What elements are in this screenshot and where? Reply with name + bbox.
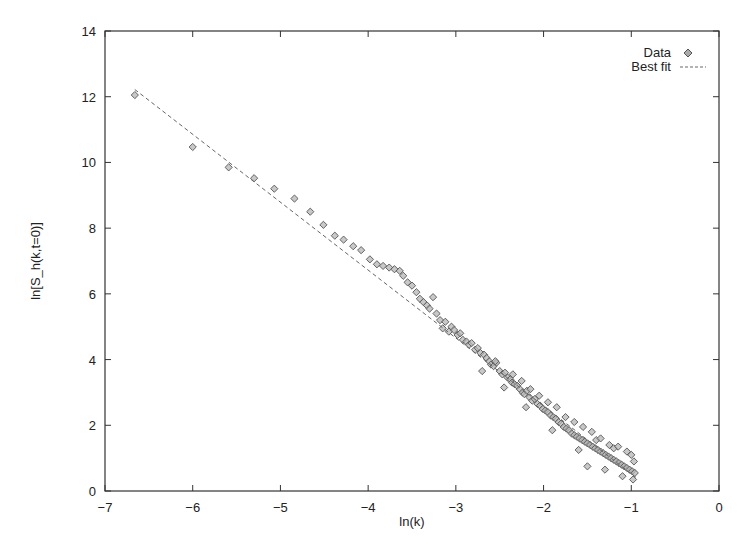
- x-tick-label: −1: [624, 500, 639, 515]
- x-tick-label: −6: [185, 500, 200, 515]
- plot-area: [131, 89, 638, 483]
- legend-label-data: Data: [644, 45, 672, 60]
- y-tick-label: 0: [89, 484, 96, 499]
- x-tick-label: 0: [715, 500, 722, 515]
- x-tick-label: −3: [448, 500, 463, 515]
- data-point: [251, 175, 258, 182]
- data-point: [358, 247, 365, 254]
- plot-frame: [105, 31, 719, 491]
- data-point: [331, 232, 338, 239]
- y-tick-label: 8: [89, 221, 96, 236]
- legend-label-best-fit: Best fit: [631, 59, 671, 74]
- data-point: [601, 466, 608, 473]
- data-point: [291, 195, 298, 202]
- data-point: [544, 399, 551, 406]
- x-tick-label: −7: [98, 500, 113, 515]
- best-fit-line: [135, 89, 636, 477]
- data-point: [131, 91, 138, 98]
- data-point: [373, 261, 380, 268]
- data-point: [413, 289, 420, 296]
- scatter-plot: −7−6−5−4−3−2−1002468101214 ln(k) ln[S_h(…: [0, 0, 745, 546]
- x-tick-label: −2: [536, 500, 551, 515]
- data-point: [571, 418, 578, 425]
- data-point: [619, 473, 626, 480]
- x-tick-label: −4: [361, 500, 376, 515]
- data-point: [350, 243, 357, 250]
- data-point: [366, 256, 373, 263]
- data-point: [553, 404, 560, 411]
- data-point: [379, 262, 386, 269]
- data-point: [433, 310, 440, 317]
- y-tick-label: 12: [82, 90, 96, 105]
- data-point: [320, 221, 327, 228]
- data-point: [225, 164, 232, 171]
- y-tick-label: 4: [89, 353, 96, 368]
- data-point: [518, 377, 525, 384]
- data-point: [549, 427, 556, 434]
- data-point: [575, 446, 582, 453]
- data-point: [479, 367, 486, 374]
- data-point: [562, 413, 569, 420]
- x-tick-label: −5: [273, 500, 288, 515]
- data-point: [588, 428, 595, 435]
- y-tick-label: 14: [82, 24, 96, 39]
- data-point: [189, 143, 196, 150]
- data-point: [340, 236, 347, 243]
- data-point: [579, 423, 586, 430]
- y-tick-label: 6: [89, 287, 96, 302]
- y-tick-label: 2: [89, 418, 96, 433]
- data-point: [501, 384, 508, 391]
- legend: Data Best fit: [631, 45, 706, 74]
- data-point: [271, 185, 278, 192]
- data-point: [307, 208, 314, 215]
- data-point: [584, 463, 591, 470]
- diamond-marker-icon: [684, 49, 692, 57]
- y-tick-label: 10: [82, 155, 96, 170]
- y-axis-label: ln[S_h(k,t=0)]: [28, 222, 43, 300]
- data-point: [522, 404, 529, 411]
- x-axis-label: ln(k): [399, 514, 424, 529]
- data-point: [429, 294, 436, 301]
